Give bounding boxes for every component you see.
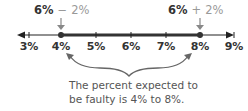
endpoint-8-dot — [197, 32, 203, 38]
left-value: 6% — [34, 3, 54, 17]
tick-label-5: 5% — [87, 40, 106, 53]
plus-operator: + — [192, 3, 202, 17]
left-endpoint-label: 6% − 2% — [34, 3, 89, 17]
right-arrow-icon — [226, 32, 234, 39]
left-arrow-icon — [17, 32, 25, 39]
caption-line-1: The percent expected to — [69, 78, 198, 92]
right-value: 6% — [168, 3, 188, 17]
minus-operator: − — [58, 3, 68, 17]
brace-icon — [70, 56, 188, 76]
tick-label-9: 9% — [225, 40, 244, 53]
caption-line-2: be faulty is 4% to 8%. — [69, 92, 198, 106]
tick-label-6: 6% — [122, 40, 141, 53]
tick-label-8: 8% — [191, 40, 210, 53]
tick-label-7: 7% — [157, 40, 176, 53]
caption: The percent expected to be faulty is 4% … — [69, 78, 198, 106]
right-delta: 2% — [205, 3, 223, 17]
tick-label-4: 4% — [52, 40, 71, 53]
left-delta: 2% — [71, 3, 89, 17]
tick-label-3: 3% — [20, 40, 39, 53]
right-endpoint-label: 6% + 2% — [168, 3, 223, 17]
endpoint-4-dot — [58, 32, 64, 38]
